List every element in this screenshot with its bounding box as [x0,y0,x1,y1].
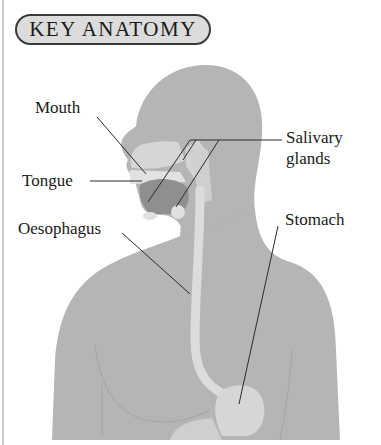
label-salivary-line2: glands [286,150,330,168]
label-oesophagus: Oesophagus [18,220,101,238]
stomach-shape [215,385,264,436]
submandibular-gland [171,205,185,219]
label-salivary-line1: Salivary [286,129,343,147]
label-tongue: Tongue [22,172,73,190]
sublingual-gland [143,212,157,220]
label-stomach: Stomach [285,211,345,229]
label-mouth: Mouth [35,99,80,117]
